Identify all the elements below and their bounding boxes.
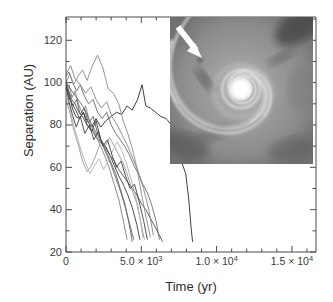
- x-tick-label: 1.5 × 104: [271, 256, 313, 267]
- x-tick-mantissa: 1.5 × 10: [271, 255, 309, 267]
- x-tick-mantissa: 1.0 × 10: [195, 255, 233, 267]
- x-tick-label: 1.0 × 104: [195, 256, 237, 267]
- y-tick-label: 100: [32, 77, 62, 88]
- y-tick-label: 40: [32, 204, 62, 215]
- inset-disk-image: [170, 17, 313, 164]
- x-tick-exponent: 4: [234, 254, 238, 263]
- x-axis-title: Time (yr): [66, 279, 316, 294]
- figure-root: 20406080100120 05.0 × 1031.0 × 1041.5 × …: [0, 0, 333, 302]
- disk-clump: [197, 57, 204, 62]
- y-tick-label: 60: [32, 162, 62, 173]
- x-tick-exponent: 4: [309, 254, 313, 263]
- disk-core: [230, 78, 253, 101]
- x-tick-label: 5.0 × 103: [120, 256, 162, 267]
- y-axis-title: Separation (AU): [21, 21, 36, 201]
- x-tick-mantissa: 5.0 × 10: [120, 255, 158, 267]
- y-tick-label: 80: [32, 119, 62, 130]
- x-tick-exponent: 3: [158, 254, 162, 263]
- y-tick-label: 120: [32, 35, 62, 46]
- x-axis-tick-labels: 05.0 × 1031.0 × 1041.5 × 104: [0, 256, 333, 272]
- x-tick-label: 0: [63, 256, 69, 267]
